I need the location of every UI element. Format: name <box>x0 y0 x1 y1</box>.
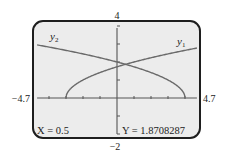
ymax-label: 4 <box>115 10 120 21</box>
ymin-label: −2 <box>110 141 121 152</box>
trace-x-readout: X = 0.5 <box>37 125 69 136</box>
xmin-label: −4.7 <box>12 93 30 104</box>
trace-y-readout: Y = 1.8708287 <box>122 125 185 136</box>
calculator-graph: 4 −2 −4.7 4.7 y2 y1 X = 0.5 Y = 1.870828… <box>0 0 226 157</box>
xmax-label: 4.7 <box>203 93 216 104</box>
